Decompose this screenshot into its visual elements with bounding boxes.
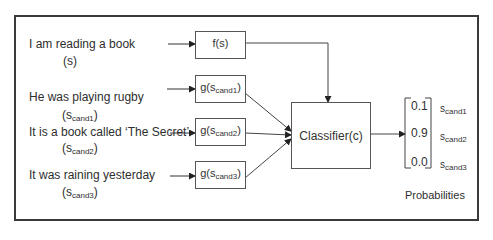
symbol-text: (s [62, 185, 72, 199]
symbol-text: (s [62, 108, 72, 122]
symbol-close: ) [73, 54, 77, 68]
prob-label-cand2: scand2 [440, 131, 467, 144]
symbol-close: ) [94, 108, 98, 122]
input-symbol-cand2: (scand2) [62, 141, 98, 156]
encoder-box-g-cand3: g(scand3) [195, 161, 246, 189]
prob-label-cand1: scand1 [440, 103, 467, 116]
symbol-subscript: cand3 [72, 191, 94, 200]
input-symbol-cand1: (scand1) [62, 108, 98, 123]
symbol-close: ) [94, 185, 98, 199]
prob-value-cand1: 0.1 [411, 99, 428, 113]
encoder-box-g-cand2: g(scand2) [195, 118, 246, 146]
symbol-subscript: cand2 [72, 147, 94, 156]
encoder-label: g(scand2) [200, 124, 241, 138]
input-sentence-cand3: It was raining yesterday [29, 168, 155, 182]
input-symbol-cand3: (scand3) [62, 185, 98, 200]
prob-value-cand3: 0.0 [411, 155, 428, 169]
prob-label-cand3: scand3 [440, 159, 467, 172]
probabilities-caption: Probabilities [405, 189, 465, 201]
symbol-close: ) [94, 141, 98, 155]
input-symbol-s: (s) [63, 54, 77, 68]
encoder-label: f(s) [213, 37, 229, 49]
encoder-box-f: f(s) [195, 31, 246, 59]
encoder-label: g(scand1) [200, 81, 241, 95]
symbol-text: (s [62, 141, 72, 155]
input-sentence-cand1: He was playing rugby [29, 90, 144, 104]
input-sentence-cand2: It is a book called ‘The Secret’ [29, 125, 189, 139]
encoder-label: g(scand3) [200, 167, 241, 181]
encoder-box-g-cand1: g(scand1) [195, 75, 246, 103]
classifier-box: Classifier(c) [291, 102, 371, 169]
symbol-text: (s [63, 54, 73, 68]
prob-value-cand2: 0.9 [411, 126, 428, 140]
classifier-label: Classifier(c) [299, 129, 362, 143]
input-sentence-s: I am reading a book [29, 37, 135, 51]
symbol-subscript: cand1 [72, 114, 94, 123]
